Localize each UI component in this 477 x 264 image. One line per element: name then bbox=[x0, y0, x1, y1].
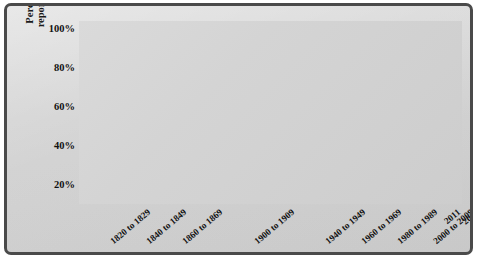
y-axis-tick-label: 40% bbox=[54, 140, 75, 151]
chart-figure: Percentage of immigrants reporting Europ… bbox=[0, 0, 477, 264]
plot-background bbox=[79, 21, 462, 204]
x-axis-tick-label: 1900 to 1909 bbox=[252, 207, 296, 246]
y-axis-title-line2: reporting European origins bbox=[35, 3, 46, 27]
y-axis-title: Percentage of immigrants reporting Europ… bbox=[18, 3, 52, 54]
chart-frame: Percentage of immigrants reporting Europ… bbox=[4, 3, 473, 255]
plot-area: 20%40%60%80%100% 1820 to 18291840 to 184… bbox=[79, 21, 462, 204]
y-axis-tick-label: 60% bbox=[54, 101, 75, 112]
y-axis-tick-label: 80% bbox=[54, 62, 75, 73]
y-axis-tick-label: 100% bbox=[49, 23, 75, 34]
y-axis-title-line1: Percentage of immigrants bbox=[24, 3, 35, 24]
y-axis-tick-label: 20% bbox=[54, 179, 75, 190]
